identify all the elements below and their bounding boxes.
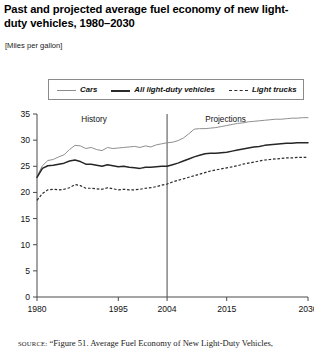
series-line-light-trucks [37, 157, 308, 200]
y-tick-label: 5 [25, 266, 30, 276]
legend-label-all-light-duty-vehicles: All light-duty vehicles [134, 85, 215, 94]
y-tick-label: 15 [20, 214, 30, 224]
source-label: SOURCE: [18, 340, 47, 347]
source-note: SOURCE: “Figure 51. Average Fuel Economy… [18, 338, 314, 348]
x-tick-label: 2004 [158, 304, 177, 314]
chart-units-subtitle: [Miles per gallon] [5, 41, 62, 50]
legend-label-cars: Cars [80, 85, 97, 94]
y-tick-label: 20 [20, 187, 30, 197]
legend-label-light-trucks: Light trucks [252, 85, 297, 94]
chart-plot-area: 05101520253035 19801995200420152030 Hist… [0, 104, 314, 324]
legend-line-icon-light-trucks [229, 87, 248, 93]
chart-svg: 05101520253035 19801995200420152030 Hist… [0, 104, 314, 324]
x-tick-label: 1995 [109, 304, 128, 314]
y-tick-label: 0 [25, 292, 30, 302]
legend-item-all-light-duty-vehicles: All light-duty vehicles [111, 85, 215, 94]
x-tick-label: 2030 [298, 304, 314, 314]
legend-item-light-trucks: Light trucks [229, 85, 297, 94]
y-axis-ticks: 05101520253035 [20, 109, 37, 302]
annotation-history: History [81, 115, 107, 124]
y-tick-label: 30 [20, 135, 30, 145]
y-tick-label: 10 [20, 240, 30, 250]
source-text: “Figure 51. Average Fuel Economy of New … [49, 338, 273, 348]
x-tick-label: 2015 [217, 304, 236, 314]
x-axis-ticks: 19801995200420152030 [27, 297, 314, 314]
legend-item-cars: Cars [57, 85, 97, 94]
y-tick-label: 35 [20, 109, 30, 119]
series-line-all-light-duty-vehicles [37, 143, 308, 178]
x-tick-label: 1980 [27, 304, 46, 314]
annotation-projections: Projections [205, 115, 246, 124]
page-title: Past and projected average fuel economy … [4, 3, 304, 30]
title-block: Past and projected average fuel economy … [4, 3, 304, 30]
chart-legend: Cars All light-duty vehicles Light truck… [48, 79, 304, 100]
legend-line-icon-all-light-duty-vehicles [111, 87, 130, 93]
y-tick-label: 25 [20, 161, 30, 171]
series-line-cars [37, 118, 308, 177]
legend-line-icon-cars [57, 87, 76, 93]
